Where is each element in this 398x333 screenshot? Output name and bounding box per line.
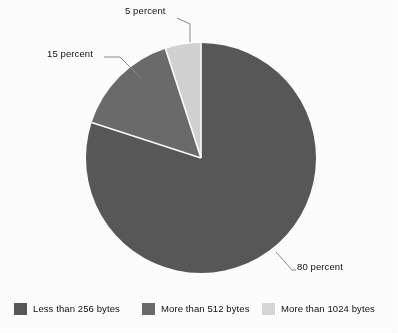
legend-item-label: Less than 256 bytes xyxy=(33,303,120,315)
leader-line-five-percent xyxy=(177,18,190,42)
slice-label-fifteen-percent: 15 percent xyxy=(47,48,93,59)
legend-swatch-icon xyxy=(142,303,155,315)
legend-item-more-than-1024-bytes[interactable]: More than 1024 bytes xyxy=(262,300,375,318)
legend-swatch-icon xyxy=(262,303,275,315)
slice-label-five-percent: 5 percent xyxy=(125,5,166,16)
legend-item-less-than-256-bytes[interactable]: Less than 256 bytes xyxy=(14,300,120,318)
pie-chart-figure: 5 percent 15 percent 80 percent Less tha… xyxy=(0,0,398,333)
legend-item-label: More than 1024 bytes xyxy=(281,303,375,315)
legend-item-more-than-512-bytes[interactable]: More than 512 bytes xyxy=(142,300,250,318)
slice-label-eighty-percent: 80 percent xyxy=(297,261,343,272)
leader-line-eighty-percent xyxy=(276,252,296,270)
legend-item-label: More than 512 bytes xyxy=(161,303,250,315)
chart-legend: Less than 256 bytes More than 512 bytes … xyxy=(0,300,398,322)
legend-swatch-icon xyxy=(14,303,27,315)
